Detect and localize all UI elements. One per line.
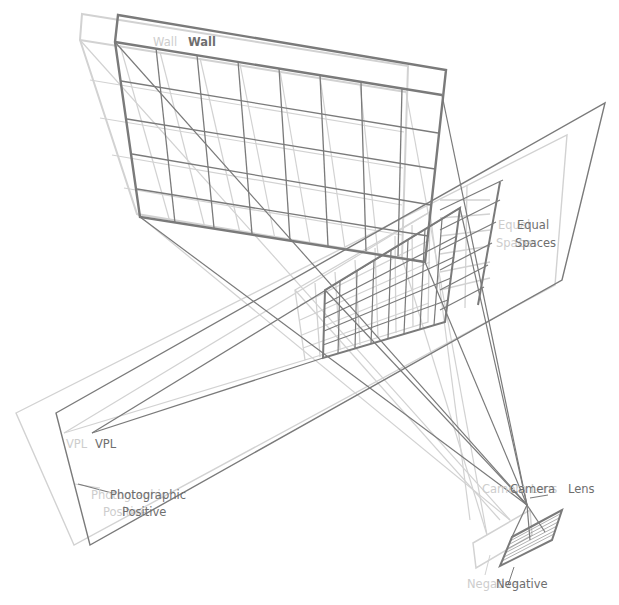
photographic-label: Photographic [110,488,186,502]
lens-label: Lens [568,482,595,496]
wall [115,15,446,262]
camera-label: Camera [510,482,555,496]
wall-label: Wall [188,35,216,49]
ghost-projected-grid [295,212,430,360]
negative-label: Negative [496,577,548,591]
equal-label: Equal [517,218,549,232]
perspective-diagram: Wall Wall Equal Spaces Equal Spaces VPL … [0,0,619,605]
vpl-label: VPL [95,437,117,451]
wall-label-ghost: Wall [153,35,177,49]
spaces-label: Spaces [515,236,556,250]
vpl-label-ghost: VPL [66,437,88,451]
labels: Wall Wall Equal Spaces Equal Spaces VPL … [66,35,595,591]
positive-label: Positive [122,505,166,519]
